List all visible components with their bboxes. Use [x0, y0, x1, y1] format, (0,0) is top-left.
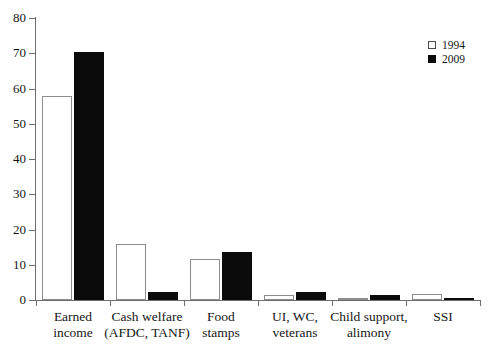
- y-tick-60: [29, 89, 35, 90]
- y-tick-label-10: 10: [0, 258, 26, 271]
- y-tick-50: [29, 124, 35, 125]
- hollow-square-icon: [428, 41, 436, 49]
- y-tick-20: [29, 230, 35, 231]
- x-tick-4: [332, 300, 333, 306]
- legend-item-2009: 2009: [428, 52, 465, 66]
- bar-group: [190, 18, 252, 300]
- y-tick-label-70: 70: [0, 46, 26, 59]
- plot-area: [36, 18, 480, 300]
- bar-group: [338, 18, 400, 300]
- bar-2009: [74, 52, 104, 301]
- y-tick-40: [29, 159, 35, 160]
- x-tick-1: [110, 300, 111, 306]
- chart-legend: 1994 2009: [428, 38, 465, 66]
- bar-2009: [148, 292, 178, 300]
- bar-group: [42, 18, 104, 300]
- y-tick-70: [29, 53, 35, 54]
- y-tick-label-30: 30: [0, 187, 26, 200]
- x-category-label-line: alimony: [320, 325, 418, 341]
- bar-group: [116, 18, 178, 300]
- legend-label-2009: 2009: [442, 52, 465, 66]
- bar-1994: [116, 244, 146, 300]
- bar-1994: [42, 96, 72, 300]
- y-tick-10: [29, 265, 35, 266]
- bar-1994: [264, 295, 294, 300]
- x-tick-5: [406, 300, 407, 306]
- y-tick-30: [29, 194, 35, 195]
- y-tick-80: [29, 18, 35, 19]
- bar-2009: [222, 252, 252, 300]
- bar-1994: [338, 298, 368, 300]
- x-tick-6: [480, 300, 481, 306]
- y-tick-0: [29, 300, 35, 301]
- y-tick-label-40: 40: [0, 152, 26, 165]
- legend-label-1994: 1994: [442, 38, 465, 52]
- y-tick-label-50: 50: [0, 117, 26, 130]
- bar-1994: [412, 294, 442, 300]
- x-tick-3: [258, 300, 259, 306]
- legend-item-1994: 1994: [428, 38, 465, 52]
- x-tick-2: [184, 300, 185, 306]
- y-tick-label-60: 60: [0, 82, 26, 95]
- bar-group: [264, 18, 326, 300]
- bar-2009: [444, 298, 474, 300]
- bar-2009: [370, 295, 400, 300]
- bar-chart-figure: 01020304050607080 EarnedincomeCash welfa…: [0, 0, 494, 353]
- bar-1994: [190, 259, 220, 300]
- y-tick-label-80: 80: [0, 11, 26, 24]
- x-tick-0: [36, 300, 37, 306]
- bar-2009: [296, 292, 326, 300]
- x-category-label: SSI: [394, 309, 492, 325]
- x-category-label-line: SSI: [394, 309, 492, 325]
- y-tick-label-0: 0: [0, 293, 26, 306]
- filled-square-icon: [428, 55, 436, 63]
- y-tick-label-20: 20: [0, 223, 26, 236]
